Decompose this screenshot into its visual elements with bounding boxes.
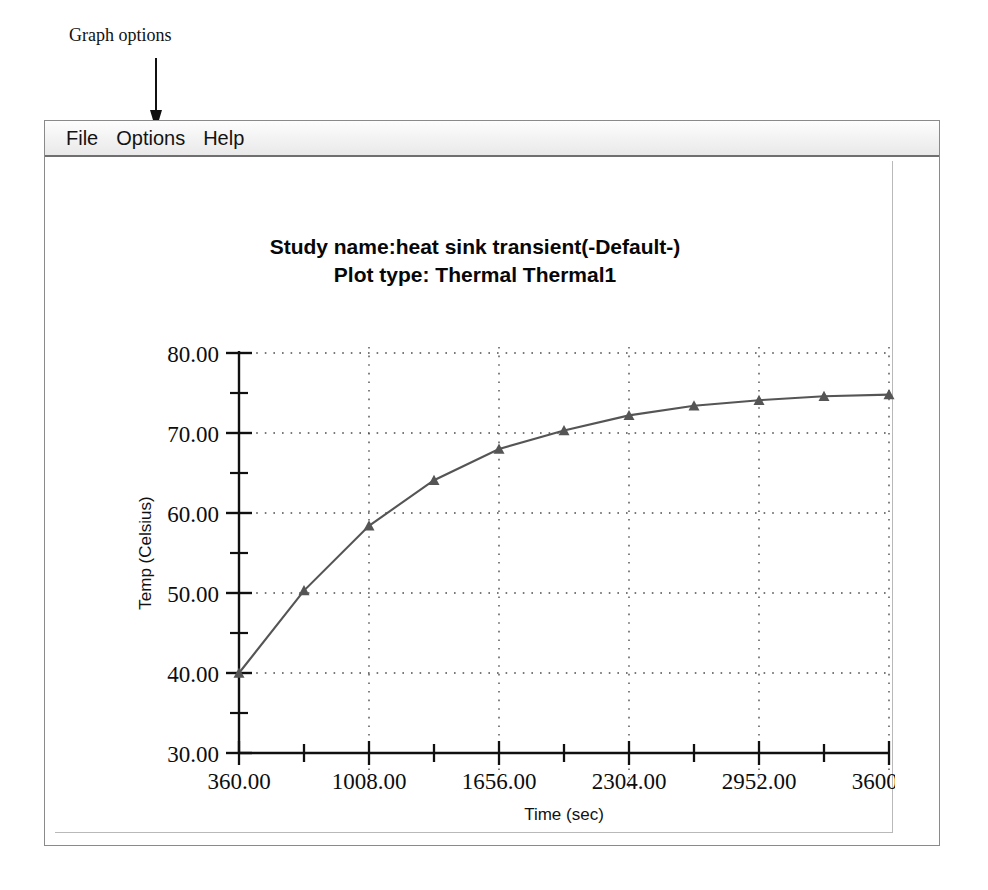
series-line [239,395,889,673]
annotation-callout: Graph options [69,26,309,126]
y-axis-title: Temp (Celsius) [136,496,155,609]
grid-layer [239,347,889,793]
menu-item-help[interactable]: Help [194,128,253,148]
x-axis-tick-label: 1656.00 [462,769,537,794]
x-axis-title: Time (sec) [524,805,604,824]
chart-stage: Study name:heat sink transient(-Default-… [55,161,895,833]
tick-label-layer: 30.0040.0050.0060.0070.0080.00360.001008… [167,342,895,794]
x-axis-tick-label: 360.00 [207,769,270,794]
x-axis-tick-label: 2952.00 [722,769,797,794]
y-axis-tick-label: 60.00 [167,502,219,527]
tick-layer [226,353,889,765]
menu-bar: File Options Help [45,121,939,157]
x-axis-tick-label: 1008.00 [332,769,407,794]
menu-item-file[interactable]: File [57,128,107,148]
y-axis-tick-label: 80.00 [167,342,219,367]
series-layer [234,389,895,678]
y-axis-tick-label: 70.00 [167,422,219,447]
y-axis-tick-label: 50.00 [167,582,219,607]
axis-layer [239,351,889,753]
series-marker [429,475,440,485]
x-axis-tick-label: 3600.00 [852,769,895,794]
graph-window: File Options Help Study name:heat sink t… [44,120,940,846]
chart-panel: Study name:heat sink transient(-Default-… [55,161,893,833]
plot-svg: 30.0040.0050.0060.0070.0080.00360.001008… [55,161,895,833]
x-axis-tick-label: 2304.00 [592,769,667,794]
y-axis-tick-label: 30.00 [167,742,219,767]
y-axis-tick-label: 40.00 [167,662,219,687]
menu-item-options[interactable]: Options [107,128,194,148]
annotation-label: Graph options [69,26,309,46]
